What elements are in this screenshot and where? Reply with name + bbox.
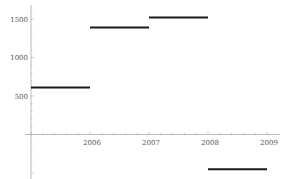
x-tick-label: 2009: [260, 139, 278, 147]
y-tick-label: 1500: [10, 16, 28, 24]
tick-labels: 200620072008200950010001500: [10, 16, 278, 147]
step-chart: 200620072008200950010001500: [0, 0, 290, 179]
x-tick-label: 2006: [83, 139, 101, 147]
x-tick-label: 2007: [142, 139, 160, 147]
y-tick-label: 1000: [10, 54, 28, 62]
ticks: [31, 11, 267, 173]
y-tick-label: 500: [15, 93, 28, 101]
x-tick-label: 2008: [201, 139, 219, 147]
axes: [25, 5, 280, 179]
